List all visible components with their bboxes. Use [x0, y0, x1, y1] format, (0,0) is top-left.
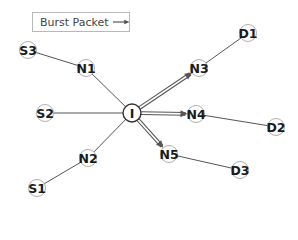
node-label-d3: D3 — [230, 163, 249, 178]
burst-edge-I-N3 — [138, 73, 189, 107]
node-label-n2: N2 — [78, 151, 97, 166]
node-label-d2: D2 — [266, 120, 285, 135]
edge-N4-D2 — [204, 115, 267, 125]
node-label-i: I — [130, 106, 135, 121]
node-label-s3: S3 — [19, 43, 37, 58]
node-label-d1: D1 — [238, 26, 257, 41]
node-label-s1: S1 — [28, 181, 46, 196]
node-label-n4: N4 — [186, 107, 205, 122]
burst-edge-I-N5 — [139, 118, 163, 145]
edge-S1-N2 — [44, 162, 80, 183]
burst-edge-I-N4 — [140, 115, 185, 116]
edge-N3-D1 — [206, 38, 241, 63]
edge-S3-N1 — [36, 53, 78, 66]
burst-edge-I-N4 — [141, 112, 186, 113]
edge-N2-I — [94, 119, 126, 152]
edge-N1-I — [92, 74, 126, 107]
edge-N5-D3 — [177, 156, 231, 168]
node-label-s2: S2 — [36, 106, 54, 121]
burst-edge-I-N5 — [137, 120, 161, 147]
burst-edge-I-N3 — [140, 75, 191, 109]
node-label-n5: N5 — [159, 147, 178, 162]
node-label-n3: N3 — [189, 61, 208, 76]
node-label-n1: N1 — [76, 61, 95, 76]
